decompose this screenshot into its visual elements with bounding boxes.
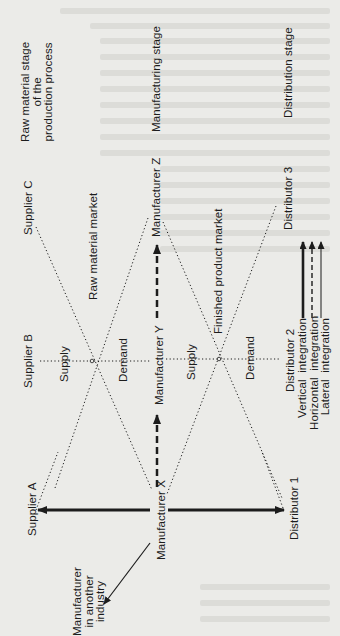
market-equilibrium-node-2 bbox=[217, 357, 221, 361]
legend-vertical-label: Vertical integration bbox=[297, 318, 309, 430]
legend-lateral-label: Lateral integration bbox=[320, 318, 332, 430]
stage-label-manufacturing: Manufacturing stage bbox=[150, 26, 162, 132]
manufacturer-z-label: Manufacturer Z bbox=[150, 158, 162, 237]
finished-product-market-label: Finished product market bbox=[212, 208, 224, 334]
manufacturer-x-label: Manufacturer X bbox=[155, 480, 167, 560]
raw-material-market-label: Raw material market bbox=[87, 193, 99, 300]
legend: Vertical integration Horizontal integrat… bbox=[297, 318, 332, 430]
stage-label-raw-material: Raw material stage of the production pro… bbox=[20, 42, 55, 142]
other-industry-label: Manufacturer in another industry bbox=[72, 567, 107, 636]
supply-label-2: Supply bbox=[185, 344, 197, 380]
supply-label-1: Supply bbox=[58, 346, 70, 382]
distributor-2-label: Distributor 2 bbox=[284, 329, 296, 392]
demand-label-1: Demand bbox=[117, 338, 129, 382]
legend-arrows bbox=[303, 242, 321, 318]
distributor-3-label: Distributor 3 bbox=[282, 167, 294, 230]
supplier-a-label: Supplier A bbox=[26, 483, 38, 536]
stage-label-distribution: Distribution stage bbox=[282, 27, 294, 118]
market-equilibrium-node-1 bbox=[90, 359, 94, 363]
distributor-1-label: Distributor 1 bbox=[288, 477, 300, 540]
lateral-integration-arrow bbox=[104, 543, 150, 604]
manufacturer-y-label: Manufacturer Y bbox=[153, 325, 165, 405]
supplier-b-label: Supplier B bbox=[22, 334, 34, 388]
demand-label-2: Demand bbox=[244, 336, 256, 380]
supplier-c-label: Supplier C bbox=[22, 180, 34, 235]
